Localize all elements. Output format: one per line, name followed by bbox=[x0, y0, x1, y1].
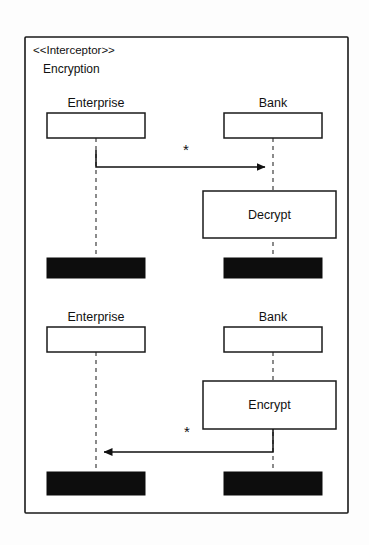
participant-box-bank-1[interactable] bbox=[224, 113, 322, 138]
multiplicity-label-enterprise-to-bank: * bbox=[183, 141, 189, 158]
participant-label-enterprise-1: Enterprise bbox=[68, 96, 125, 110]
termination-bar-bank-2 bbox=[224, 472, 322, 495]
termination-bar-enterprise-2 bbox=[47, 472, 145, 495]
activation-label-encrypt: Encrypt bbox=[248, 398, 291, 412]
termination-bar-bank-1 bbox=[224, 258, 322, 278]
participant-box-enterprise-1[interactable] bbox=[47, 113, 145, 138]
participant-box-bank-2[interactable] bbox=[224, 327, 322, 352]
multiplicity-label-bank-to-enterprise: * bbox=[184, 423, 190, 440]
interceptor-name-label: Encryption bbox=[43, 62, 100, 76]
diagram-canvas: <<Interceptor>> Encryption Enterprise Ba… bbox=[0, 0, 369, 545]
participant-box-enterprise-2[interactable] bbox=[47, 327, 145, 352]
activation-label-decrypt: Decrypt bbox=[248, 208, 292, 222]
termination-bar-enterprise-1 bbox=[47, 258, 145, 278]
sequence-diagram: <<Interceptor>> Encryption Enterprise Ba… bbox=[0, 0, 369, 545]
participant-label-enterprise-2: Enterprise bbox=[68, 310, 125, 324]
participant-label-bank-2: Bank bbox=[259, 310, 288, 324]
stereotype-label: <<Interceptor>> bbox=[33, 44, 115, 56]
participant-label-bank-1: Bank bbox=[259, 96, 288, 110]
